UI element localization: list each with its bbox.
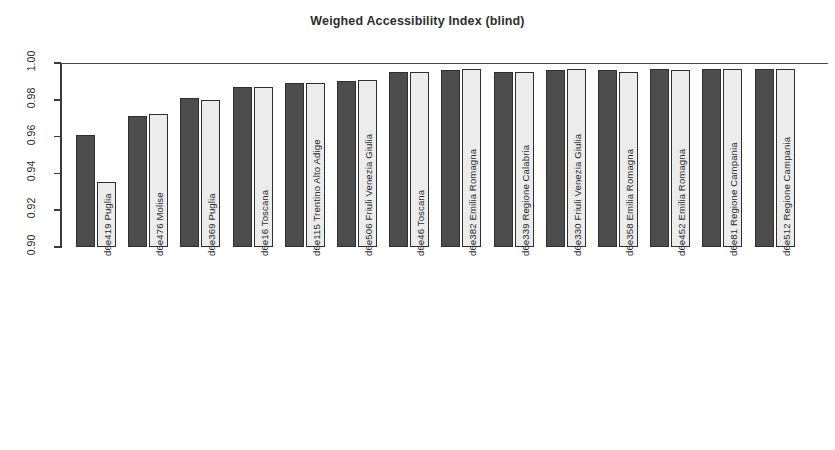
x-axis-label: d6e512 Regione Campania	[781, 137, 792, 256]
bar-series-a[interactable]	[180, 98, 199, 247]
bar-series-a[interactable]	[598, 70, 617, 247]
x-axis-label: d6e476 Molise	[154, 192, 165, 256]
y-tick-label: 1.00	[25, 44, 37, 78]
bar-series-a[interactable]	[389, 72, 408, 247]
bar-series-a[interactable]	[702, 69, 721, 247]
x-axis-label: d6e506 Friuli Venezia Giulia	[363, 134, 374, 256]
y-tick-label: 0.98	[25, 81, 37, 115]
y-tick-label: 0.94	[25, 154, 37, 188]
bar-series-a[interactable]	[76, 135, 95, 247]
y-tick-label: 0.96	[25, 118, 37, 152]
x-axis-label: d6e419 Puglia	[102, 193, 113, 256]
x-axis-label: d6e339 Regione Calabria	[520, 145, 531, 256]
y-tick-mark	[54, 209, 61, 211]
bar-series-a[interactable]	[233, 87, 252, 247]
bar-series-a[interactable]	[755, 69, 774, 247]
x-axis-label: d6e452 Emilia Romagna	[676, 149, 687, 256]
y-tick-mark	[54, 246, 61, 248]
chart-container: Weighed Accessibility Index (blind) 0.90…	[0, 0, 835, 450]
x-axis-label: d6e382 Emilia Romagna	[467, 149, 478, 256]
y-tick-mark	[54, 136, 61, 138]
y-tick-mark	[54, 62, 61, 64]
x-axis-label: d6e115 Trentino Alto Adige	[311, 139, 322, 256]
y-tick-label: 0.92	[25, 191, 37, 225]
x-axis-label: d6e330 Friuli Venezia Giulia	[572, 134, 583, 256]
bar-series-a[interactable]	[285, 83, 304, 247]
bar-series-a[interactable]	[650, 69, 669, 247]
bar-series-a[interactable]	[546, 70, 565, 247]
y-tick-mark	[54, 99, 61, 101]
bar-series-a[interactable]	[441, 70, 460, 247]
y-tick-mark	[54, 173, 61, 175]
x-axis-label: d6e81 Regione Campania	[728, 142, 739, 256]
y-tick-label: 0.90	[25, 228, 37, 262]
x-axis-label: d6e16 Toscana	[259, 190, 270, 256]
bar-series-a[interactable]	[337, 81, 356, 247]
x-axis-label: d6e46 Toscana	[415, 190, 426, 256]
bar-series-a[interactable]	[128, 116, 147, 247]
plot-area	[62, 63, 828, 247]
x-axis-label: d6e369 Puglia	[206, 193, 217, 256]
x-axis-label: d6e358 Emilia Romagna	[624, 149, 635, 256]
chart-title: Weighed Accessibility Index (blind)	[0, 14, 835, 28]
bar-series-a[interactable]	[494, 72, 513, 247]
